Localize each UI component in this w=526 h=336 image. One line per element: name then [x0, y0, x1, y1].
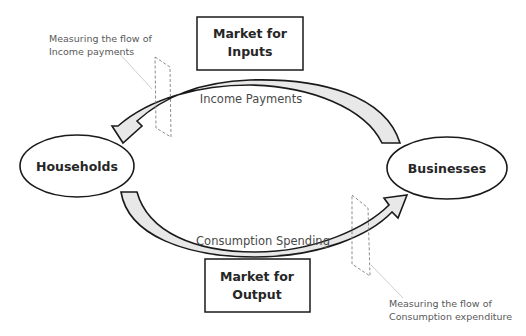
income-measure-annotation: Measuring the flow of Income payments [49, 33, 152, 57]
income-note-line1: Measuring the flow of [49, 33, 152, 44]
consumption-note-line1: Measuring the flow of [389, 298, 492, 309]
households-label: Households [36, 159, 118, 174]
market-inputs-line1: Market for [213, 26, 288, 41]
businesses-label: Businesses [408, 161, 486, 176]
market-for-inputs-box: Market for Inputs [197, 17, 303, 70]
consumption-measure-annotation: Measuring the flow of Consumption expend… [389, 298, 512, 322]
circular-flow-diagram: Market for Inputs Market for Output Hous… [0, 0, 526, 336]
income-payments-label: Income Payments [200, 92, 302, 106]
businesses-node: Businesses [387, 137, 507, 199]
market-output-line1: Market for [220, 269, 295, 284]
consumption-spending-label: Consumption Spending [196, 234, 330, 248]
income-note-line2: Income payments [49, 46, 134, 57]
market-output-line2: Output [232, 287, 281, 302]
income-payments-arrow [112, 80, 400, 143]
households-node: Households [20, 135, 134, 197]
market-for-output-box: Market for Output [205, 259, 310, 312]
consumption-note-line2: Consumption expenditure [389, 311, 512, 322]
market-inputs-line2: Inputs [228, 44, 273, 59]
consumption-leader-line [371, 265, 403, 298]
